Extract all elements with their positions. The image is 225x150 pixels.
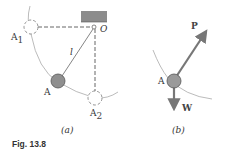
panel-b: P W A (b) xyxy=(153,21,212,135)
label-w: W xyxy=(181,103,193,113)
label-o: O xyxy=(100,24,108,34)
support-block xyxy=(81,11,107,22)
panel-a: O l A1 A A2 (a) xyxy=(10,6,118,135)
label-a: A xyxy=(43,87,51,97)
panel-b-label: (b) xyxy=(172,125,185,135)
panel-a-label: (a) xyxy=(61,125,74,135)
pendulum-string xyxy=(62,29,93,76)
ball-a xyxy=(51,74,65,88)
ball-a1 xyxy=(24,20,38,34)
pivot-o xyxy=(92,25,96,29)
label-l: l xyxy=(70,47,73,57)
figure-caption: Fig. 13.8 xyxy=(12,139,46,149)
label-a2: A2 xyxy=(89,108,102,121)
force-p-arrow xyxy=(176,33,205,77)
figure-13-8: O l A1 A A2 (a) P W A (b) Fig. 13.8 xyxy=(0,0,225,150)
ball-b xyxy=(167,74,181,88)
path-arc-b xyxy=(153,50,212,99)
label-a1: A1 xyxy=(10,32,23,45)
ball-a2 xyxy=(88,91,102,105)
label-a-b: A xyxy=(157,76,165,86)
label-p: P xyxy=(191,21,198,31)
